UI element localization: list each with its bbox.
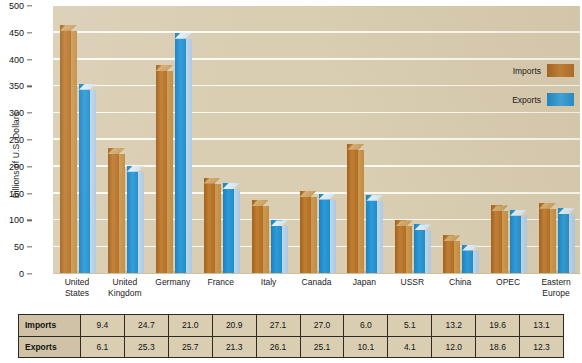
bar-group	[491, 6, 527, 274]
bar-imports	[539, 203, 550, 274]
table-cell: 25.7	[169, 337, 213, 358]
table-cells-imports: 9.424.721.020.927.127.06.05.113.219.613.…	[81, 315, 563, 336]
bar-side-face	[406, 226, 412, 274]
bar-side-face	[425, 230, 431, 274]
bar-series-container	[53, 6, 580, 274]
bar-side-face	[454, 241, 460, 274]
bar-group	[443, 6, 479, 274]
bar-front-face	[60, 25, 71, 274]
table-cell: 26.1	[257, 337, 301, 358]
bar-group	[300, 6, 336, 274]
table-cell: 12.0	[432, 337, 476, 358]
table-cells-exports: 6.125.325.721.326.125.110.14.112.018.612…	[81, 337, 563, 358]
bar-exports	[366, 195, 377, 274]
data-table: Imports 9.424.721.020.927.127.06.05.113.…	[18, 314, 564, 358]
bar-side-face	[282, 226, 288, 274]
bar-group	[60, 6, 96, 274]
y-tick-mark-400	[27, 59, 32, 60]
x-axis-label: Canada	[293, 277, 341, 288]
table-cell: 21.3	[213, 337, 257, 358]
bar-front-face	[204, 178, 215, 274]
bar-side-face	[186, 39, 192, 274]
bar-imports	[60, 25, 71, 274]
y-tick-label-100: 100	[0, 215, 24, 225]
x-axis-label: USSR	[388, 277, 436, 288]
bar-front-face	[271, 220, 282, 274]
bar-imports	[300, 191, 311, 274]
x-axis-label: Japan	[340, 277, 388, 288]
bar-group	[395, 6, 431, 274]
bar-side-face	[311, 197, 317, 274]
y-tick-mark-150	[27, 193, 32, 194]
x-axis-label: UnitedKingdom	[101, 277, 149, 298]
bar-group	[156, 6, 192, 274]
bar-front-face	[319, 194, 330, 274]
bar-exports	[510, 210, 521, 274]
bar-imports	[443, 235, 454, 274]
bar-side-face	[521, 216, 527, 274]
y-tick-label-450: 450	[0, 28, 24, 38]
x-axis-label: EasternEurope	[532, 277, 580, 298]
bar-side-face	[473, 251, 479, 274]
bar-front-face	[414, 224, 425, 274]
x-axis-label: Germany	[149, 277, 197, 288]
table-cell: 24.7	[125, 315, 169, 336]
bar-side-face	[215, 184, 221, 274]
table-row-header-imports: Imports	[19, 315, 81, 336]
table-cell: 18.6	[476, 337, 520, 358]
bar-side-face	[550, 209, 556, 274]
bar-side-face	[502, 211, 508, 274]
bar-exports	[462, 245, 473, 274]
bar-exports	[127, 166, 138, 274]
plot-area: Imports Exports	[53, 6, 580, 274]
y-tick-label-350: 350	[0, 81, 24, 91]
table-cell: 25.3	[125, 337, 169, 358]
table-cell: 19.6	[476, 315, 520, 336]
table-cell: 5.1	[388, 315, 432, 336]
bar-front-face	[300, 191, 311, 274]
bar-exports	[175, 33, 186, 274]
bar-side-face	[358, 150, 364, 274]
bar-side-face	[119, 154, 125, 274]
table-row-header-exports: Exports	[19, 337, 81, 358]
bar-exports	[558, 208, 569, 274]
table-cell: 27.1	[257, 315, 301, 336]
exports-swatch-icon	[547, 93, 574, 106]
legend-item-imports: Imports	[464, 64, 574, 77]
bar-front-face	[127, 166, 138, 274]
bar-exports	[271, 220, 282, 274]
y-tick-label-400: 400	[0, 55, 24, 65]
bar-group	[252, 6, 288, 274]
bar-front-face	[252, 200, 263, 274]
y-tick-label-300: 300	[0, 108, 24, 118]
bar-imports	[395, 220, 406, 274]
bar-front-face	[156, 65, 167, 274]
x-axis-labels: UnitedStatesUnitedKingdomGermanyFranceIt…	[53, 277, 580, 303]
imports-swatch-icon	[547, 64, 574, 77]
legend-item-exports: Exports	[464, 93, 574, 106]
y-tick-mark-450	[27, 32, 32, 33]
x-axis-label: UnitedStates	[53, 277, 101, 298]
y-tick-mark-250	[27, 139, 32, 140]
y-tick-mark-100	[27, 220, 32, 221]
bar-side-face	[138, 172, 144, 274]
bar-front-face	[347, 144, 358, 274]
bar-front-face	[539, 203, 550, 274]
x-axis-baseline	[53, 273, 580, 275]
bar-imports	[347, 144, 358, 274]
bar-side-face	[263, 206, 269, 274]
x-axis-label: OPEC	[484, 277, 532, 288]
bar-exports	[319, 194, 330, 274]
bar-front-face	[366, 195, 377, 274]
y-tick-label-500: 500	[0, 1, 24, 11]
bar-front-face	[510, 210, 521, 274]
bar-front-face	[558, 208, 569, 274]
table-cell: 6.0	[344, 315, 388, 336]
bar-imports	[204, 178, 215, 274]
y-tick-mark-350	[27, 86, 32, 87]
bar-exports	[223, 183, 234, 274]
table-cell: 9.4	[81, 315, 125, 336]
bar-side-face	[377, 201, 383, 274]
y-tick-label-0: 0	[0, 269, 24, 279]
table-cell: 20.9	[213, 315, 257, 336]
